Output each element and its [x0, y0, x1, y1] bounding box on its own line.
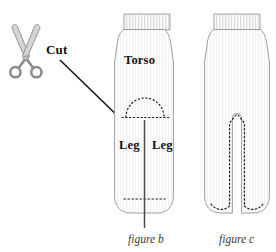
- figure-c-sock: [205, 14, 270, 213]
- figure-c-caption: figure c: [219, 233, 254, 245]
- leg-label-left: Leg: [119, 138, 140, 153]
- figure-b-caption: figure b: [128, 233, 164, 245]
- cut-label: Cut: [46, 42, 68, 58]
- figure-b-sock: [115, 14, 174, 228]
- diagram-canvas: [0, 0, 276, 252]
- leg-label-right: Leg: [152, 138, 173, 153]
- sock-cutting-diagram: Cut Torso Leg Leg figure b figure c: [0, 0, 276, 252]
- torso-label: Torso: [124, 53, 155, 68]
- scissors-icon: [10, 25, 41, 78]
